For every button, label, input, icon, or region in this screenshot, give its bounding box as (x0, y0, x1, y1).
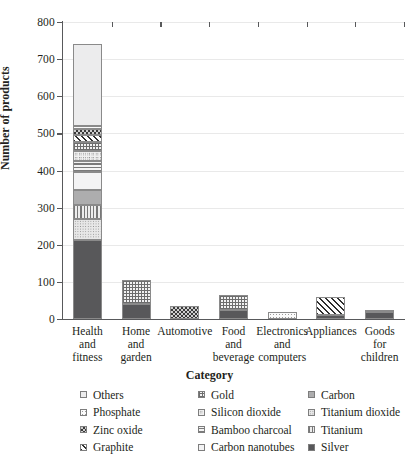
x-axis-tick (160, 22, 161, 27)
bar-appliances[interactable] (316, 297, 345, 319)
bar-segment-phosphate[interactable] (268, 312, 297, 319)
bar-segment-zinc-oxide[interactable] (73, 129, 102, 135)
bar-segment-titanium[interactable] (73, 205, 102, 219)
legend-swatch-icon (198, 391, 205, 398)
legend-swatch-icon (308, 426, 315, 433)
x-axis-tick (355, 22, 356, 27)
legend-item[interactable]: Bamboo charcoal (198, 421, 308, 439)
legend-swatch-icon (80, 391, 87, 398)
gridline (63, 208, 404, 209)
legend-swatch-icon (198, 409, 205, 416)
bar-electronics-and-computers[interactable] (268, 312, 297, 319)
bar-segment-silver[interactable] (219, 310, 248, 319)
bar-segment-titanium-dioxide[interactable] (73, 219, 102, 240)
x-axis-tick (112, 22, 113, 27)
gridline (63, 245, 404, 246)
bar-automotive[interactable] (170, 306, 199, 319)
y-axis-tick-label: 700 (37, 53, 55, 65)
legend-item[interactable]: Carbon (308, 386, 406, 404)
gridline (63, 59, 404, 60)
legend-swatch-icon (308, 409, 315, 416)
bar-segment-gold[interactable] (73, 142, 102, 151)
y-axis-tick-label: 100 (37, 276, 55, 288)
y-axis-tick-label: 0 (49, 313, 55, 325)
legend-swatch-icon (198, 444, 205, 451)
legend-label: Carbon (321, 389, 355, 401)
y-axis-tick-label: 600 (37, 90, 55, 102)
bar-segment-silver[interactable] (73, 240, 102, 319)
gridline (63, 133, 404, 134)
bar-segment-phosphate[interactable] (73, 126, 102, 129)
y-axis-tick-label: 300 (37, 202, 55, 214)
legend-label: Silver (321, 441, 348, 453)
legend-label: Titanium (321, 424, 363, 436)
legend-swatch-icon (198, 426, 205, 433)
legend-item[interactable]: Silver (308, 439, 406, 457)
legend-label: Others (93, 389, 124, 401)
bar-segment-graphite[interactable] (316, 297, 345, 315)
bar-segment-gold[interactable] (122, 280, 151, 304)
bar-segment-silver[interactable] (316, 315, 345, 319)
legend-item[interactable]: Others (80, 386, 198, 404)
x-axis-tick (258, 22, 259, 27)
bar-health-and-fitness[interactable] (73, 44, 102, 319)
legend-swatch-icon (308, 444, 315, 451)
x-axis-tick (209, 22, 210, 27)
bar-segment-carbon-nanotubes[interactable] (73, 172, 102, 189)
gridline (63, 282, 404, 283)
legend-label: Silicon dioxide (211, 406, 281, 418)
legend-item[interactable]: Phosphate (80, 404, 198, 422)
y-axis-tick (57, 171, 63, 172)
y-axis-tick-label: 200 (37, 239, 55, 251)
x-axis-category-label: Goodsforchildren (337, 325, 419, 365)
legend-item[interactable]: Carbon nanotubes (198, 439, 308, 457)
gridline (63, 171, 404, 172)
bar-home-and-garden[interactable] (122, 280, 151, 319)
bar-segment-zinc-oxide[interactable] (365, 310, 394, 312)
bar-segment-silver[interactable] (365, 312, 394, 319)
legend-item[interactable]: Zinc oxide (80, 421, 198, 439)
y-axis-tick (57, 59, 63, 60)
chart-legend: OthersGoldCarbonPhosphateSilicon dioxide… (80, 386, 406, 456)
bar-segment-others[interactable] (73, 44, 102, 126)
x-axis-tick (307, 22, 308, 27)
gridline (63, 96, 404, 97)
legend-item[interactable]: Titanium dioxide (308, 404, 406, 422)
x-axis-title: Category (0, 368, 419, 383)
y-axis-tick (57, 208, 63, 209)
legend-item[interactable]: Gold (198, 386, 308, 404)
legend-item[interactable]: Silicon dioxide (198, 404, 308, 422)
y-axis-tick-label: 400 (37, 165, 55, 177)
y-axis-tick (57, 133, 63, 134)
legend-label: Phosphate (93, 406, 140, 418)
bar-segment-bamboo-charcoal[interactable] (73, 161, 102, 173)
legend-swatch-icon (308, 391, 315, 398)
bar-food-and-beverage[interactable] (219, 295, 248, 319)
x-axis-category-line: children (337, 351, 419, 364)
legend-swatch-icon (80, 426, 87, 433)
y-axis-tick-label: 800 (37, 16, 55, 28)
legend-swatch-icon (80, 409, 87, 416)
legend-label: Graphite (93, 441, 133, 453)
bar-segment-carbon[interactable] (73, 190, 102, 205)
legend-item[interactable]: Graphite (80, 439, 198, 457)
y-axis-title: Number of products (0, 66, 13, 170)
x-axis-category-line: Goods (337, 325, 419, 338)
gridline (63, 22, 404, 23)
x-axis-category-line: for (337, 338, 419, 351)
bar-goods-for-children[interactable] (365, 312, 394, 319)
y-axis-tick-label: 500 (37, 127, 55, 139)
legend-item[interactable]: Titanium (308, 421, 406, 439)
bar-segment-silicon-dioxide[interactable] (73, 151, 102, 161)
legend-label: Gold (211, 389, 234, 401)
legend-label: Zinc oxide (93, 424, 143, 436)
y-axis-tick (57, 319, 63, 320)
y-axis-tick (57, 282, 63, 283)
y-axis-tick (57, 22, 63, 23)
plot-area: 0100200300400500600700800 (63, 22, 404, 319)
bar-segment-gold[interactable] (219, 295, 248, 310)
bar-segment-graphite[interactable] (73, 135, 102, 142)
bar-segment-zinc-oxide[interactable] (170, 306, 199, 319)
x-axis-tick (404, 22, 405, 27)
bar-segment-silver[interactable] (122, 304, 151, 319)
